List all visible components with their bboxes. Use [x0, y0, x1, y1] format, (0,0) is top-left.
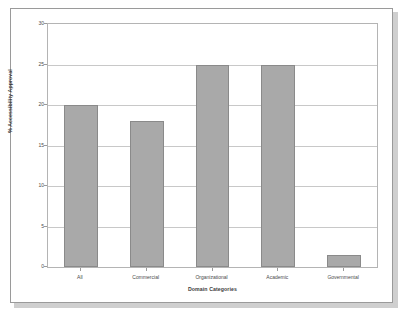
y-axis-title: % Accessibility Approval	[7, 69, 13, 133]
bar-academic[interactable]	[261, 65, 295, 268]
y-axis-tick-labels: 30 25 20 15 10 5 0	[28, 23, 44, 268]
x-tick-mark	[80, 268, 81, 271]
x-tick-mark	[277, 268, 278, 271]
plot-area	[47, 23, 378, 268]
x-tick-mark	[343, 268, 344, 271]
x-tick-label-commercial: Commercial	[132, 274, 159, 280]
bar-chart-figure: 30 25 20 15 10 5 0 All Commercial Organi…	[0, 0, 403, 316]
x-tick-mark	[146, 268, 147, 271]
x-tick-label-all: All	[77, 274, 83, 280]
bar-organizational[interactable]	[196, 65, 230, 268]
bar-all[interactable]	[64, 105, 98, 267]
x-tick-label-academic: Academic	[266, 274, 288, 280]
x-tick-mark	[212, 268, 213, 271]
bars-layer	[48, 24, 377, 267]
bar-commercial[interactable]	[130, 121, 164, 267]
bar-governmental[interactable]	[327, 255, 361, 267]
x-tick-label-organizational: Organizational	[195, 274, 227, 280]
x-tick-label-governmental: Governmental	[327, 274, 358, 280]
x-axis-title: Domain Categories	[47, 286, 378, 292]
